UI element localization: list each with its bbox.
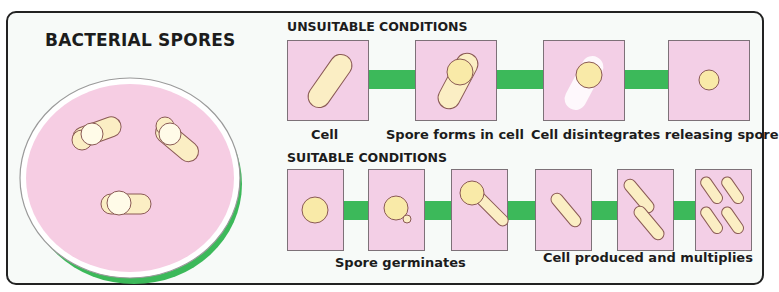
label-spore-germinates: Spore germinates bbox=[335, 255, 466, 270]
label-cell-multiplies: Cell produced and multiplies bbox=[543, 250, 753, 265]
